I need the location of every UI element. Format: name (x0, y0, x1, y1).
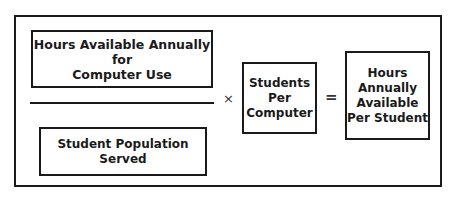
result-label: Hours Annually Available Per Student (347, 66, 428, 126)
result-box: Hours Annually Available Per Student (345, 51, 430, 140)
denominator-box: Student Population Served (39, 127, 207, 176)
multiply-operator: × (223, 92, 234, 105)
fraction-divider (30, 102, 214, 104)
numerator-box: Hours Available Annually for Computer Us… (31, 30, 213, 88)
denominator-label: Student Population Served (57, 137, 188, 167)
multiplier-label: Students Per Computer (246, 76, 312, 121)
numerator-label: Hours Available Annually for Computer Us… (33, 37, 211, 82)
equals-operator: = (325, 91, 338, 104)
multiplier-box: Students Per Computer (242, 62, 317, 134)
